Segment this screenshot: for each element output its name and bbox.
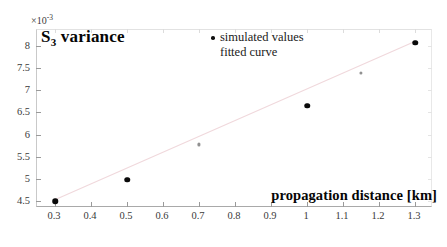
- y-axis-tick-label: 6.5: [17, 106, 30, 117]
- x-axis-tick: [235, 202, 236, 207]
- y-axis-tick-right: [428, 68, 432, 69]
- y-axis-tick: [36, 90, 41, 91]
- x-axis-tick-label: 1.3: [407, 210, 420, 221]
- x-axis-tick: [127, 202, 128, 207]
- legend-entry-simulated-values: simulated values: [206, 30, 304, 45]
- x-axis-tick: [163, 202, 164, 207]
- y-axis-tick-label: 5.5: [17, 150, 30, 161]
- y-axis-tick: [36, 157, 41, 158]
- x-axis-tick-label: 1.1: [335, 210, 348, 221]
- title-text: variance: [56, 27, 124, 46]
- data-point: [304, 103, 310, 109]
- x-axis-tick-top: [415, 29, 416, 33]
- x-axis-tick-label: 0.6: [155, 210, 168, 221]
- y-axis-exponent-label: ×10-3: [31, 13, 53, 26]
- y-axis-tick-right: [428, 157, 432, 158]
- x-axis-tick-label: 1: [303, 210, 308, 221]
- x-axis-tick-top: [199, 29, 200, 33]
- legend-label-simulated-values: simulated values: [220, 30, 304, 45]
- line-marker-icon: [206, 45, 220, 60]
- x-axis-tick-top: [163, 29, 164, 33]
- y-axis-tick-label: 8: [25, 39, 30, 50]
- x-axis-tick-label: 0.5: [119, 210, 132, 221]
- chart-legend: simulated values fitted curve: [206, 30, 304, 60]
- x-axis-label: propagation distance [km]: [271, 187, 437, 204]
- x-axis-tick-top: [127, 29, 128, 33]
- x-axis-tick-label: 0.9: [263, 210, 276, 221]
- y-axis-tick: [36, 179, 41, 180]
- y-axis-tick-label: 7: [25, 84, 30, 95]
- y-axis-tick-label: 6: [25, 128, 30, 139]
- x-axis-tick: [91, 202, 92, 207]
- y-axis-tick-right: [428, 46, 432, 47]
- y-axis-tick-label: 4.5: [17, 195, 30, 206]
- data-point: [197, 143, 200, 146]
- y-axis-tick-right: [428, 179, 432, 180]
- data-point: [412, 40, 418, 46]
- x-axis-tick-top: [379, 29, 380, 33]
- exponent-power: -3: [47, 13, 53, 22]
- exponent-prefix: ×10: [31, 15, 47, 26]
- x-axis-tick-top: [307, 29, 308, 33]
- y-axis-tick: [36, 112, 41, 113]
- title-symbol: S: [41, 27, 51, 46]
- y-axis-tick-label: 7.5: [17, 61, 30, 72]
- y-axis-tick-right: [428, 112, 432, 113]
- x-axis-tick: [199, 202, 200, 207]
- y-axis-tick: [36, 135, 41, 136]
- x-axis-tick-label: 0.8: [227, 210, 240, 221]
- x-axis-tick-label: 1.2: [371, 210, 384, 221]
- y-axis-tick-label: 5: [25, 173, 30, 184]
- chart-figure: ×10-3 S3 variance simulated values fitte…: [0, 0, 447, 247]
- x-axis-tick-label: 0.3: [47, 210, 60, 221]
- data-point: [52, 199, 58, 205]
- y-axis-tick: [36, 201, 41, 202]
- data-point: [124, 177, 130, 183]
- data-point: [359, 72, 362, 75]
- x-axis-tick-label: 0.7: [191, 210, 204, 221]
- y-axis-tick-right: [428, 90, 432, 91]
- chart-title: S3 variance: [41, 27, 125, 48]
- legend-entry-fitted-curve: fitted curve: [206, 45, 304, 60]
- legend-label-fitted-curve: fitted curve: [220, 45, 277, 60]
- y-axis-tick-right: [428, 135, 432, 136]
- x-axis-tick-top: [343, 29, 344, 33]
- dot-marker-icon: [206, 30, 220, 45]
- y-axis-tick: [36, 68, 41, 69]
- x-axis-tick-label: 0.4: [83, 210, 96, 221]
